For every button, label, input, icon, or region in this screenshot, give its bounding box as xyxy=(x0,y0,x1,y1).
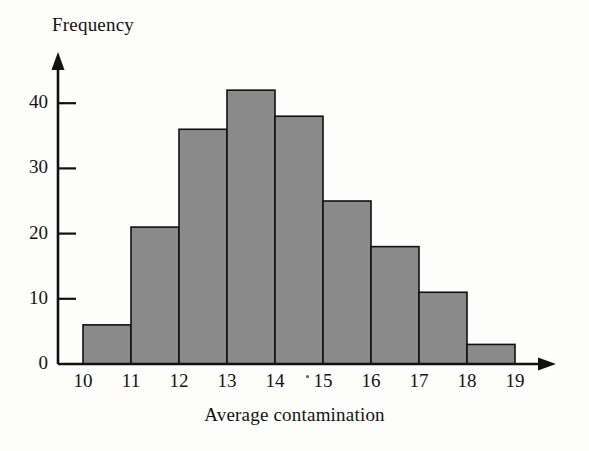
histogram-bar xyxy=(131,227,179,364)
x-axis-tick-label: 14 xyxy=(255,370,295,392)
bars-group xyxy=(83,90,515,364)
x-axis-tick-label: 15 xyxy=(303,370,343,392)
y-axis-ticks-group xyxy=(58,103,76,299)
x-axis-arrowhead xyxy=(538,358,556,371)
histogram-bar xyxy=(227,90,275,364)
histogram-bar xyxy=(179,129,227,364)
y-axis-tick-label: 20 xyxy=(14,222,48,244)
y-axis-tick-label: 30 xyxy=(14,156,48,178)
y-axis-tick-label: 40 xyxy=(14,91,48,113)
histogram-bar xyxy=(467,344,515,364)
histogram-bar xyxy=(323,201,371,364)
histogram-bar xyxy=(419,292,467,364)
x-axis-tick-label: 18 xyxy=(447,370,487,392)
y-axis-tick-label: 0 xyxy=(14,352,48,374)
histogram-bar xyxy=(371,247,419,364)
scan-speck-artifact xyxy=(306,375,309,378)
histogram-bar xyxy=(275,116,323,364)
x-axis-tick-label: 13 xyxy=(207,370,247,392)
x-axis-tick-label: 19 xyxy=(495,370,535,392)
x-axis-tick-label: 17 xyxy=(399,370,439,392)
y-axis-arrowhead xyxy=(52,52,65,70)
y-axis-title: Frequency xyxy=(52,14,134,36)
x-axis-tick-label: 10 xyxy=(63,370,103,392)
x-axis-tick-label: 12 xyxy=(159,370,199,392)
histogram-figure: Frequency Average contamination 01020304… xyxy=(0,0,589,451)
x-axis-title: Average contamination xyxy=(0,404,589,426)
histogram-bar xyxy=(83,325,131,364)
x-axis-tick-label: 16 xyxy=(351,370,391,392)
y-axis-tick-label: 10 xyxy=(14,287,48,309)
x-axis-tick-label: 11 xyxy=(111,370,151,392)
